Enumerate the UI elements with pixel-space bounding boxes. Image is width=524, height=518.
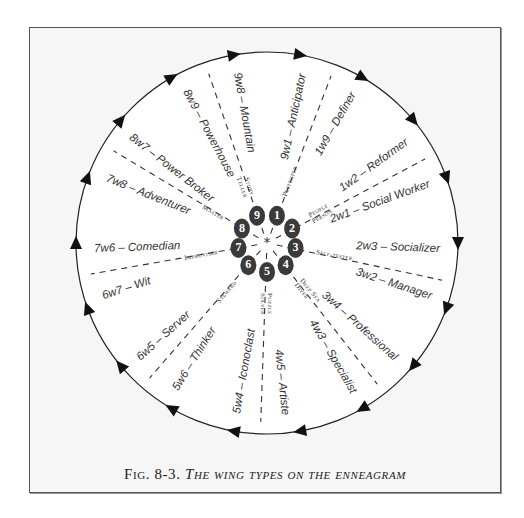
type-number: 9: [254, 208, 260, 222]
enneagram-wing-diagram: 9w1 – Anticipator1w9 – Definer1w2 – Refo…: [0, 0, 524, 518]
figure-caption: Fig. 8-3. The wing types on the enneagra…: [29, 466, 501, 483]
type-number: 4: [283, 257, 289, 271]
caption-prefix: Fig. 8-3.: [124, 466, 181, 482]
caption-title: The wing types on the enneagram: [185, 466, 406, 482]
type-number: 6: [245, 257, 251, 271]
type-number: 3: [293, 240, 299, 254]
type-number: 8: [239, 221, 245, 235]
type-number: 2: [289, 221, 295, 235]
type-number: 7: [235, 240, 241, 254]
type-role-label: PuzzleSolver: [259, 293, 274, 315]
type-number: 5: [264, 264, 270, 278]
center-star-icon: *: [264, 234, 271, 250]
center-star: *: [264, 234, 271, 250]
type-number: 1: [274, 208, 280, 222]
